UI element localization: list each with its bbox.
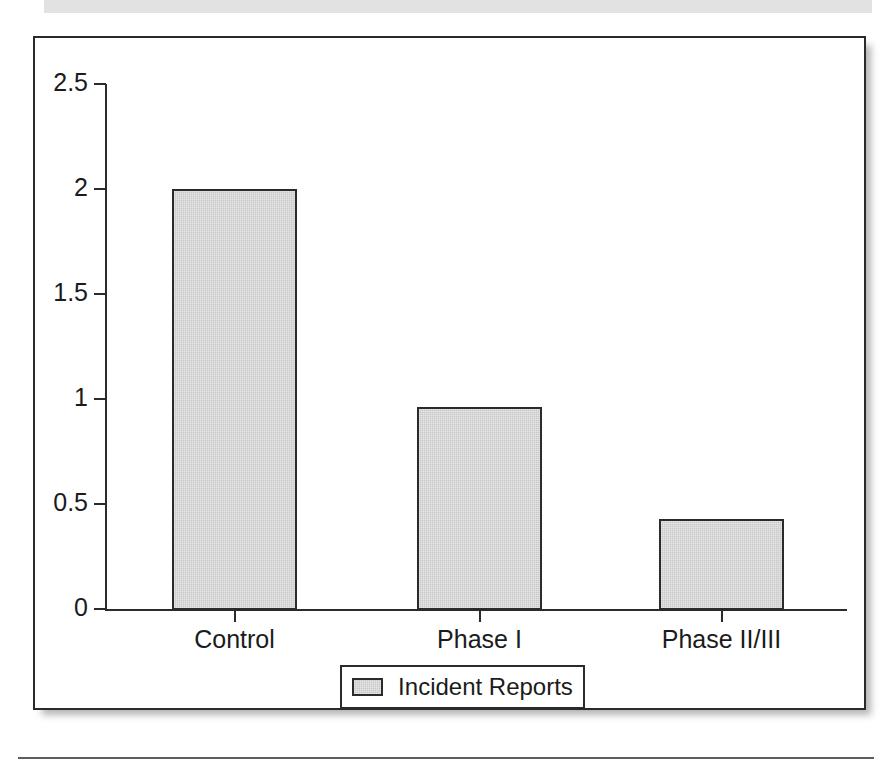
- bar: [172, 189, 297, 610]
- y-axis-tick-mark: [94, 83, 106, 85]
- legend-label: Incident Reports: [398, 675, 573, 699]
- y-axis-tick-label: 2.5: [32, 70, 88, 95]
- y-axis-tick-mark: [94, 503, 106, 505]
- x-axis-tick-mark: [721, 611, 723, 622]
- x-axis-tick-mark: [234, 611, 236, 622]
- plot-area: 2.521.510.50 ControlPhase IPhase II/III …: [35, 38, 864, 708]
- chart-figure-frame: 2.521.510.50 ControlPhase IPhase II/III …: [33, 36, 866, 710]
- x-axis-tick-label: Phase II/III: [612, 627, 832, 652]
- y-axis-tick-label: 1.5: [32, 280, 88, 305]
- scan-top-band: [44, 0, 872, 13]
- y-axis-tick-mark: [94, 293, 106, 295]
- y-axis-tick-label: 0: [32, 595, 88, 620]
- y-axis-tick-label: 1: [32, 385, 88, 410]
- x-axis-tick-mark: [479, 611, 481, 622]
- bar: [417, 407, 542, 610]
- legend-swatch-icon: [352, 678, 383, 696]
- y-axis-tick-label: 2: [32, 175, 88, 200]
- x-axis-tick-label: Control: [125, 627, 345, 652]
- bar: [659, 519, 784, 610]
- y-axis-tick-label: 0.5: [32, 490, 88, 515]
- x-axis-tick-label: Phase I: [370, 627, 590, 652]
- y-axis-tick-mark: [94, 608, 106, 610]
- y-axis-tick-mark: [94, 188, 106, 190]
- chart-legend: Incident Reports: [340, 665, 585, 709]
- y-axis-tick-mark: [94, 398, 106, 400]
- y-axis-line: [105, 84, 107, 611]
- scan-bottom-rule: [18, 757, 874, 759]
